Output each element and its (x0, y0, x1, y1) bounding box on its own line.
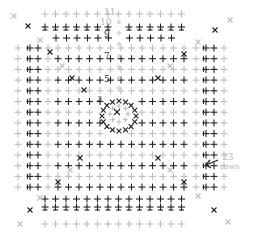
row-count-unit: rows (220, 163, 240, 171)
round-label-7: 7 (104, 52, 110, 61)
row-count-number: 23 (222, 153, 233, 161)
round-label-10: 10 (100, 18, 111, 27)
crochet-chart (0, 0, 256, 236)
round-label-11: 11 (104, 8, 115, 17)
round-label-3: 3 (97, 94, 102, 103)
round-label-5: 5 (104, 75, 110, 84)
round-label-9: 9 (104, 30, 110, 39)
